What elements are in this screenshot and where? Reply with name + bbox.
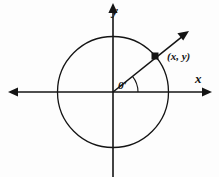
x-axis-left-arrowhead	[8, 87, 18, 96]
y-axis-label: y	[112, 4, 118, 17]
figure-container: y x (x, y) θ′	[0, 0, 219, 177]
reference-angle-label: θ′	[118, 80, 127, 91]
x-axis-right-arrowhead	[202, 87, 212, 96]
x-axis-label: x	[195, 72, 202, 85]
unit-circle-diagram	[0, 0, 219, 177]
point-coordinates-label: (x, y)	[167, 51, 190, 62]
point-marker	[152, 53, 159, 60]
reference-angle-arc	[133, 76, 139, 92]
